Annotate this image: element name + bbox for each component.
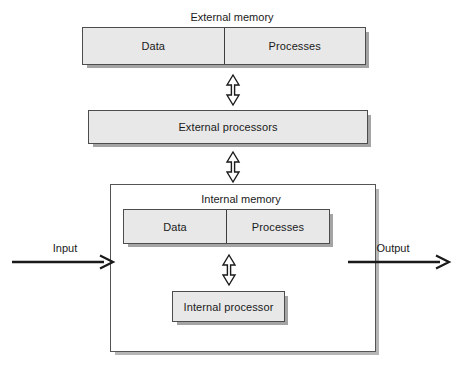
internal-memory-caption: Internal memory bbox=[126, 193, 356, 205]
internal-memory-processes-segment: Processes bbox=[226, 210, 329, 243]
double-arrow-external-processors-to-internal-unit bbox=[219, 151, 247, 183]
internal-memory-data-label: Data bbox=[163, 221, 187, 233]
external-processors-label: External processors bbox=[178, 121, 277, 133]
external-memory-data-segment: Data bbox=[83, 28, 224, 64]
external-memory-processes-segment: Processes bbox=[224, 28, 366, 64]
internal-processor-label: Internal processor bbox=[184, 301, 274, 313]
internal-memory-box: Data Processes bbox=[123, 209, 330, 244]
internal-processor-box: Internal processor bbox=[172, 291, 285, 322]
output-label: Output bbox=[358, 242, 428, 254]
input-label: Input bbox=[30, 242, 100, 254]
internal-memory-processes-label: Processes bbox=[252, 221, 304, 233]
double-arrow-internal-memory-to-internal-processor bbox=[215, 254, 243, 286]
input-arrow bbox=[12, 254, 114, 270]
output-arrow bbox=[348, 254, 450, 270]
external-memory-caption: External memory bbox=[132, 11, 332, 23]
diagram-canvas: External memory Data Processes External … bbox=[0, 0, 462, 373]
double-arrow-external-memory-to-external-processors bbox=[219, 74, 247, 106]
external-memory-data-label: Data bbox=[141, 40, 165, 52]
internal-memory-data-segment: Data bbox=[124, 210, 226, 243]
external-memory-box: Data Processes bbox=[82, 27, 366, 65]
external-processors-box: External processors bbox=[88, 110, 368, 144]
external-memory-processes-label: Processes bbox=[269, 40, 321, 52]
